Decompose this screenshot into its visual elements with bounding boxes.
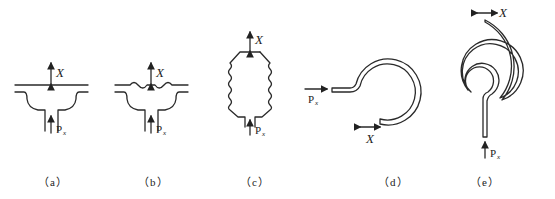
input-label-p: P	[255, 124, 261, 136]
panel-d-c-bourdon-tube: P x X （d）	[305, 59, 421, 188]
caption-c: （c）	[240, 176, 270, 188]
output-label-x: X	[155, 65, 165, 80]
caption-e: （e）	[470, 176, 500, 188]
input-label-sub: x	[314, 99, 319, 107]
input-label-sub: x	[496, 153, 501, 161]
output-label-x: X	[55, 65, 65, 80]
input-label-p: P	[156, 123, 162, 135]
panel-a-flat-diaphragm: X P x （a）	[15, 63, 88, 188]
input-label-sub: x	[162, 129, 167, 137]
input-label-sub: x	[62, 129, 67, 137]
panel-e-spiral-bourdon-tube: X P x （e）	[461, 5, 523, 188]
caption-b: （b）	[138, 176, 169, 188]
panel-b-corrugated-diaphragm: X P x （b）	[115, 63, 188, 188]
output-label-x: X	[498, 5, 508, 20]
output-label-x: X	[365, 131, 375, 146]
input-label-p: P	[56, 123, 62, 135]
caption-a: （a）	[38, 176, 68, 188]
output-label-x: X	[254, 32, 264, 47]
input-label-p: P	[308, 93, 314, 105]
panel-c-bellows: X P x （c）	[229, 32, 272, 188]
caption-d: （d）	[378, 176, 409, 188]
pressure-elements-diagram: X P x （a） X P x （b） X P x （c） P x X （d）	[0, 0, 555, 199]
input-label-sub: x	[261, 130, 266, 138]
input-label-p: P	[490, 147, 496, 159]
